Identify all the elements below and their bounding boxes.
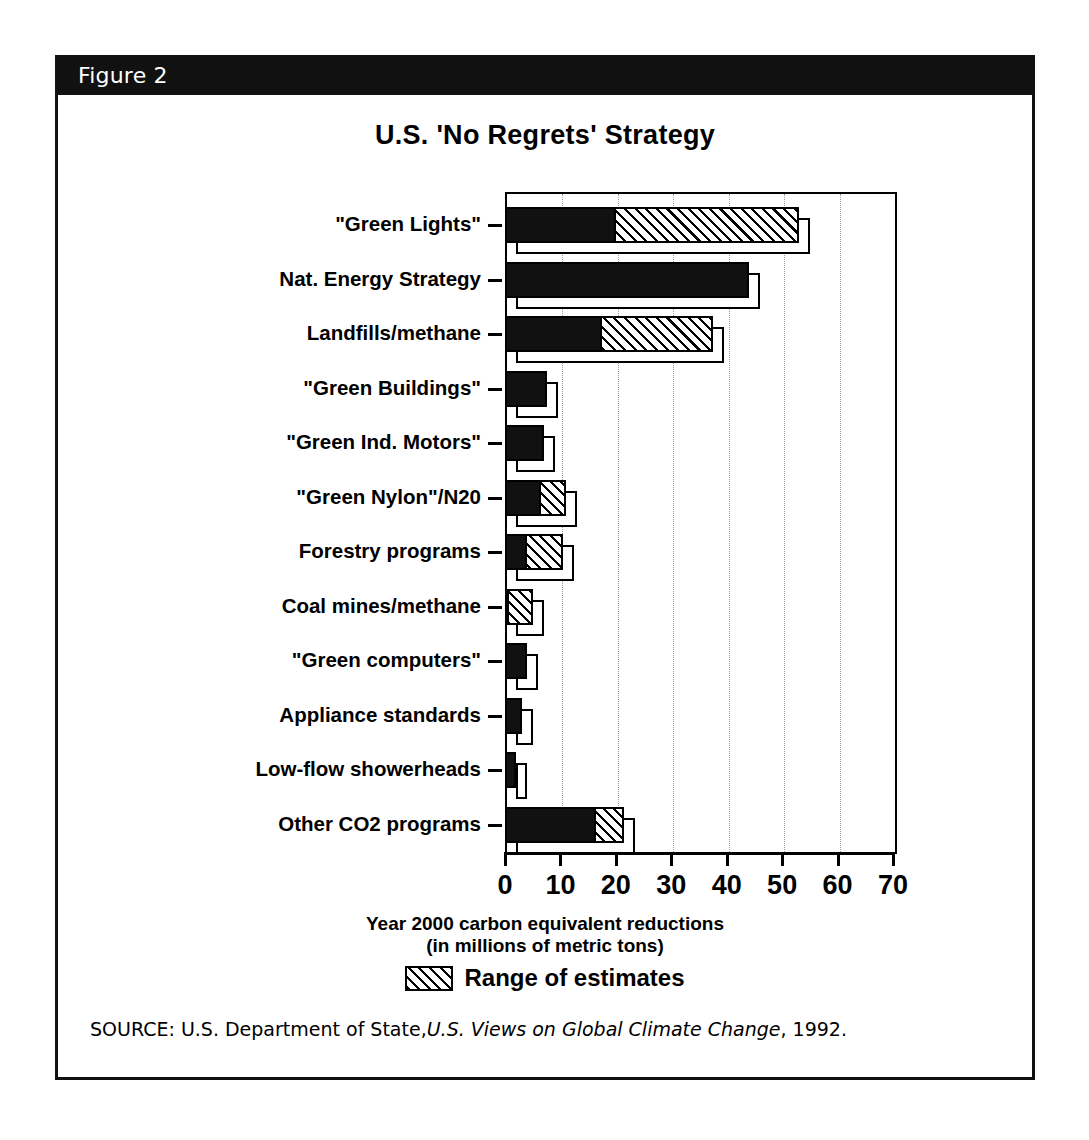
bar-segment-low (505, 371, 547, 407)
x-tick-label-70: 70 (863, 870, 923, 901)
category-label: "Green Nylon"/N20 (61, 485, 481, 509)
bar-3d-shadow (516, 763, 527, 799)
x-tick-20 (615, 852, 618, 866)
x-tick-70 (892, 852, 895, 866)
bar-segment-low (505, 643, 527, 679)
x-tick-label-40: 40 (697, 870, 757, 901)
source-text-after: , 1992. (781, 1018, 847, 1040)
category-label: Low-flow showerheads (61, 757, 481, 781)
x-tick-10 (559, 852, 562, 866)
category-leader-dash (488, 824, 502, 827)
category-leader-dash (488, 224, 502, 227)
category-leader-dash (488, 497, 502, 500)
x-axis-caption: Year 2000 carbon equivalent reductions (… (58, 913, 1032, 958)
category-leader-dash (488, 715, 502, 718)
category-label: Coal mines/methane (61, 594, 481, 618)
x-tick-60 (837, 852, 840, 866)
bar-segment-low (505, 262, 749, 298)
category-leader-dash (488, 388, 502, 391)
bar-segment-range (505, 589, 533, 625)
legend-label: Range of estimates (464, 964, 684, 992)
bar-segment-low (505, 425, 544, 461)
category-label: Nat. Energy Strategy (61, 267, 481, 291)
x-tick-label-30: 30 (641, 870, 701, 901)
category-label: "Green Ind. Motors" (61, 430, 481, 454)
x-axis-caption-line2: (in millions of metric tons) (58, 935, 1032, 957)
chart-legend: Range of estimates (58, 964, 1032, 992)
bar-segment-low (505, 534, 527, 570)
x-tick-30 (670, 852, 673, 866)
bar-segment-low (505, 316, 602, 352)
x-tick-label-20: 20 (586, 870, 646, 901)
x-tick-label-60: 60 (808, 870, 868, 901)
figure-frame: Figure 2 U.S. 'No Regrets' Strategy 0102… (55, 55, 1035, 1080)
x-axis-caption-line1: Year 2000 carbon equivalent reductions (58, 913, 1032, 935)
bar-segment-low (505, 807, 596, 843)
category-label: Forestry programs (61, 539, 481, 563)
x-tick-0 (504, 852, 507, 866)
category-label: "Green Buildings" (61, 376, 481, 400)
category-leader-dash (488, 279, 502, 282)
category-label: "Green computers" (61, 648, 481, 672)
x-tick-label-0: 0 (475, 870, 535, 901)
category-label: Other CO2 programs (61, 812, 481, 836)
gridline-60 (840, 194, 841, 854)
source-label: SOURCE: (90, 1018, 175, 1040)
bar-segment-low (505, 480, 541, 516)
category-label: Landfills/methane (61, 321, 481, 345)
hatched-range-swatch-icon (405, 966, 453, 991)
bar-segment-low (505, 589, 509, 625)
x-tick-40 (726, 852, 729, 866)
category-leader-dash (488, 606, 502, 609)
gridline-50 (784, 194, 785, 854)
source-note: SOURCE: U.S. Department of State,U.S. Vi… (90, 1018, 1012, 1040)
category-leader-dash (488, 660, 502, 663)
category-leader-dash (488, 442, 502, 445)
category-leader-dash (488, 769, 502, 772)
category-leader-dash (488, 333, 502, 336)
x-tick-50 (781, 852, 784, 866)
source-text-before: U.S. Department of State, (181, 1018, 427, 1040)
x-tick-label-10: 10 (530, 870, 590, 901)
x-tick-label-50: 50 (752, 870, 812, 901)
bar-segment-low (505, 207, 616, 243)
bar-segment-low (505, 698, 522, 734)
category-label: Appliance standards (61, 703, 481, 727)
source-publication-title: U.S. Views on Global Climate Change (427, 1018, 781, 1040)
category-label: "Green Lights" (61, 212, 481, 236)
category-leader-dash (488, 551, 502, 554)
bar-segment-low (505, 752, 516, 788)
